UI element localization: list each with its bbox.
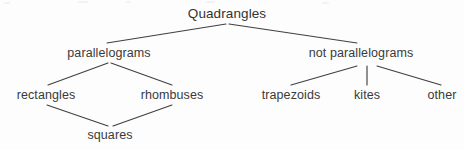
edge-quadrangles-parallelograms [107,24,226,43]
node-other: other [428,88,457,102]
edge-not-parallelograms-other [377,66,441,85]
edge-parallelograms-rectangles [48,63,108,85]
edge-quadrangles-not-parallelograms [229,24,357,43]
edge-not-parallelograms-trapezoids [291,66,357,85]
node-rhombuses: rhombuses [141,88,204,102]
node-rectangles: rectangles [17,88,76,102]
edge-parallelograms-rhombuses [111,63,172,85]
edge-rhombuses-squares [113,105,172,126]
node-quadrangles: Quadrangles [188,7,266,21]
node-not-parallelograms: not parallelograms [309,46,414,60]
node-kites: kites [354,88,380,102]
node-trapezoids: trapezoids [262,88,321,102]
edge-rectangles-squares [47,105,108,126]
diagram-edges [0,0,464,149]
node-squares: squares [87,128,132,142]
node-parallelograms: parallelograms [67,46,150,60]
quadrangles-classification-diagram: Quadrangles parallelograms not parallelo… [0,0,464,149]
